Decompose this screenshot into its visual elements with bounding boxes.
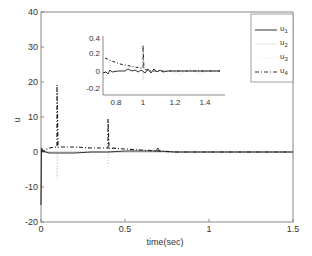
inset-x-tick-label: 1.4 [199,98,211,107]
x-tick-label: 0 [38,224,43,234]
inset-y-tick-label: 0 [96,67,101,76]
x-tick-label: 1.5 [287,224,300,234]
y-tick-label: 0 [33,147,38,157]
inset-y-tick-label: 0.2 [89,49,101,58]
y-tick-label: -10 [25,182,38,192]
legend: u1 u2 u3 u4 [251,14,293,82]
y-tick-label: 10 [28,112,38,122]
x-tick-label: 0.5 [119,224,132,234]
y-tick-label: 20 [28,77,38,87]
x-axis-label: time(sec) [146,237,183,247]
y-tick-label: -20 [25,217,38,227]
chart: 40 30 20 10 0 -10 -20 0 0.5 1 1.5 time(s… [0,0,312,256]
inset-y-tick-label: 0.4 [89,34,101,43]
inset-x-tick-label: 1 [141,98,146,107]
x-tick-label: 1 [206,224,211,234]
inset-y-tick-label: -0.2 [86,84,100,93]
y-axis-label: u [12,117,22,122]
y-tick-label: 40 [28,7,38,17]
y-tick-label: 30 [28,42,38,52]
inset-x-tick-label: 1.2 [169,98,181,107]
inset-x-tick-label: 0.8 [110,98,122,107]
